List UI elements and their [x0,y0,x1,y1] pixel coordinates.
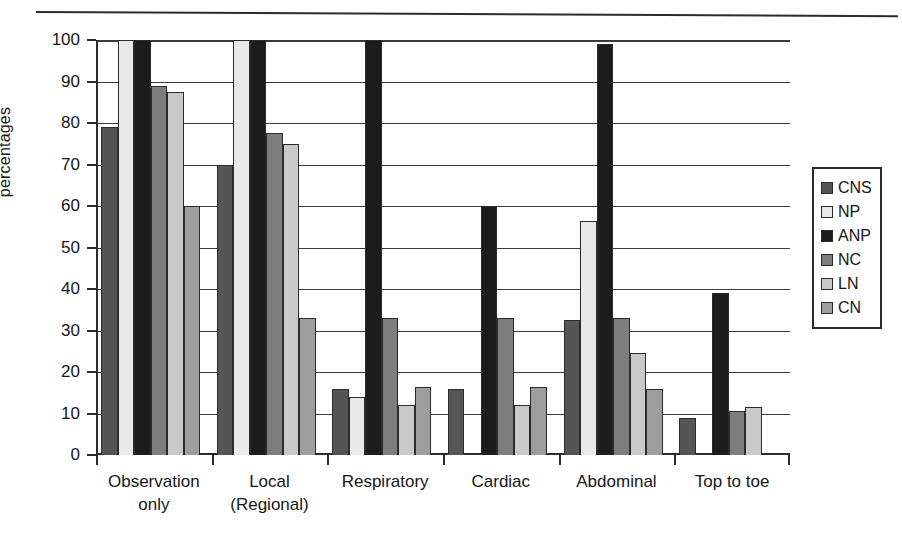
bar [184,206,201,455]
bar [266,133,283,455]
y-axis-tick-label: 80 [34,114,80,131]
legend-item-label: ANP [838,228,871,244]
y-axis-tick-label: 20 [34,363,80,380]
bar [134,40,151,455]
x-axis-tick [96,455,98,465]
x-axis-category-label-line: only [96,493,212,516]
bar-group-inner [217,40,316,455]
legend-item-np[interactable]: NP [821,200,874,224]
bar-group-inner [101,40,200,455]
legend-item-cns[interactable]: CNS [821,176,874,200]
x-axis-tick [674,455,676,465]
bar [398,405,415,455]
bar [497,318,514,455]
legend-swatch-icon [821,254,833,266]
legend: CNSNPANPNCLNCN [812,167,882,329]
y-axis-tick-label: 100 [34,31,80,48]
bar [349,397,366,455]
bar [448,389,465,455]
bar [151,86,168,455]
bar [679,418,696,455]
y-axis-tick-label: 90 [34,73,80,90]
bar [530,387,547,455]
bar [217,165,234,456]
y-axis-tick [87,330,96,332]
legend-item-ln[interactable]: LN [821,272,874,296]
legend-item-anp[interactable]: ANP [821,224,874,248]
legend-swatch-icon [821,278,833,290]
top-horizontal-rule [36,11,898,17]
legend-swatch-icon [821,302,833,314]
y-axis-tick [87,39,96,41]
bar-group [96,40,212,455]
bar [514,405,531,455]
bar-group [443,40,559,455]
y-axis-tick [87,205,96,207]
y-axis-tick [87,81,96,83]
y-axis-tick-label: 70 [34,156,80,173]
y-axis-tick-label: 40 [34,280,80,297]
x-axis-category-label-line: Local [212,470,328,493]
bar-group [674,40,790,455]
x-axis-tick [212,455,214,465]
x-axis-category-label: Observationonly [96,470,212,516]
bar [415,387,432,455]
x-axis-category-label: Respiratory [327,470,443,516]
chart-page: percentages 0102030405060708090100 Obser… [0,0,902,543]
legend-swatch-icon [821,206,833,218]
bar-group-inner [679,293,778,455]
y-axis-tick-label: 30 [34,322,80,339]
bar [712,293,729,455]
x-axis-category-label: Local(Regional) [212,470,328,516]
x-axis-category-label-line: (Regional) [212,493,328,516]
y-axis-tick [87,164,96,166]
legend-item-label: LN [838,276,858,292]
x-axis-category-label-line: Respiratory [327,470,443,493]
bar [101,127,118,455]
x-axis-category-label-line: Observation [96,470,212,493]
y-axis-tick-labels: 0102030405060708090100 [34,40,80,455]
bar [332,389,349,455]
bar-groups [96,40,790,455]
y-axis-tick [87,247,96,249]
legend-item-cn[interactable]: CN [821,296,874,320]
x-axis-category-labels: ObservationonlyLocal(Regional)Respirator… [96,470,790,516]
x-axis-category-label: Cardiac [443,470,559,516]
bar [580,221,597,455]
x-axis-ticks [96,455,790,465]
legend-swatch-icon [821,182,833,194]
y-axis-title: percentages [0,72,14,232]
bar [167,92,184,455]
y-axis-tick-label: 60 [34,197,80,214]
bar-group [212,40,328,455]
bar-group [559,40,675,455]
x-axis-tick [559,455,561,465]
x-axis-category-label-line: Cardiac [443,470,559,493]
legend-swatch-icon [821,230,833,242]
plot-area [96,40,790,455]
legend-item-label: CN [838,300,861,316]
bar-group-inner [332,40,431,455]
bar [250,40,267,455]
y-axis-tick [87,288,96,290]
bar [118,40,135,455]
legend-item-nc[interactable]: NC [821,248,874,272]
bar [382,318,399,455]
bar-group-inner [448,206,547,455]
x-axis-tick [327,455,329,465]
bar [365,40,382,455]
bar [745,407,762,455]
bar [646,389,663,455]
x-axis-category-label: Top to toe [674,470,790,516]
y-axis-tick [87,371,96,373]
bar [597,44,614,455]
y-axis-tick [87,122,96,124]
bar-group-inner [564,44,663,455]
bar [564,320,581,455]
legend-item-label: NP [838,204,860,220]
bar [630,353,647,455]
bar [481,206,498,455]
bar [283,144,300,455]
y-axis-tick-label: 50 [34,239,80,256]
y-axis-tick [87,454,96,456]
